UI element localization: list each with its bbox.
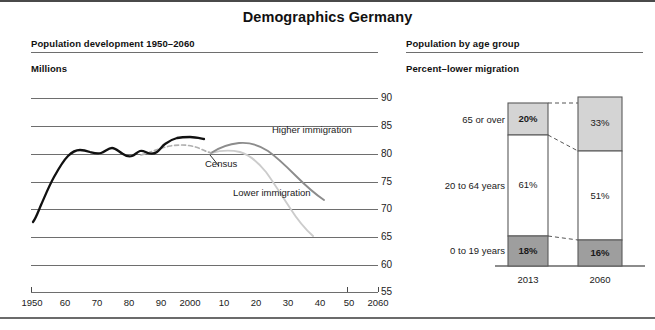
x-tick-1950: 1950 [15, 297, 49, 308]
x-tick-1970: 70 [80, 297, 114, 308]
category-label-65-or-over: 65 or over [405, 114, 505, 125]
infographic-root: Demographics Germany Population developm… [0, 0, 655, 330]
annotation-lower-immigration: Lower immigration [233, 187, 311, 198]
x-tick-2030: 30 [271, 297, 305, 308]
connector-old-mid [548, 135, 578, 151]
x-tick-2010: 10 [207, 297, 241, 308]
annotation-higher-immigration: Higher immigration [272, 124, 352, 135]
value-2013-20-to-64: 61% [498, 179, 558, 190]
bar-year-2013: 2013 [498, 274, 558, 285]
x-axis-ticks [31, 287, 378, 292]
x-tick-2060: 2060 [361, 297, 395, 308]
x-tick-2000: 2000 [173, 297, 207, 308]
x-tick-1980: 80 [112, 297, 146, 308]
x-tick-2020: 20 [239, 297, 273, 308]
bar-year-2060: 2060 [570, 274, 630, 285]
value-2013-0-to-19: 18% [498, 245, 558, 256]
x-tick-1960: 60 [48, 297, 82, 308]
value-2060-0-to-19: 16% [570, 247, 630, 258]
value-2013-65-or-over: 20% [498, 113, 558, 124]
population-by-age-group-bar-chart: 65 or over 20 to 64 years 0 to 19 years … [400, 0, 655, 320]
value-2060-20-to-64: 51% [570, 190, 630, 201]
value-2060-65-or-over: 33% [570, 117, 630, 128]
connector-mid-young [548, 236, 578, 240]
category-label-20-to-64: 20 to 64 years [405, 180, 505, 191]
bar-chart-svg [400, 0, 655, 320]
line-chart-svg [0, 0, 400, 320]
population-development-line-chart: 90 85 80 75 70 65 60 55 1950 60 70 80 90… [0, 0, 400, 320]
category-label-0-to-19: 0 to 19 years [405, 245, 505, 256]
annotation-census: Census [205, 158, 237, 169]
